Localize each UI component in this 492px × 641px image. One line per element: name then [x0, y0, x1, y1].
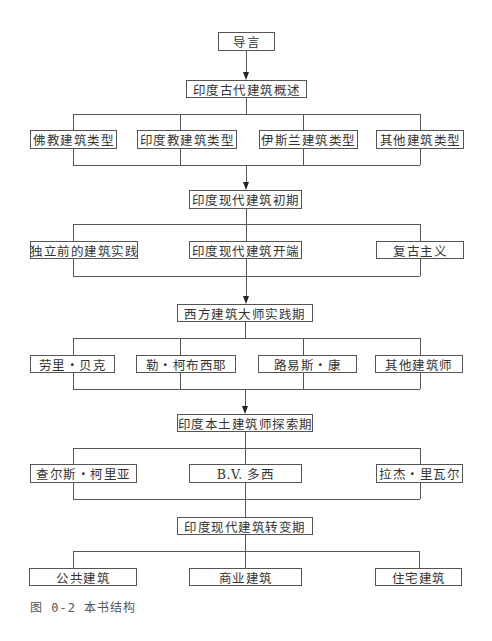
node-hindu-types: 印度教建筑类型	[137, 130, 237, 149]
node-le-corbusier: 勒・柯布西耶	[136, 355, 236, 373]
connector-line	[245, 389, 246, 406]
connector-line	[246, 165, 247, 182]
connector-line	[73, 499, 420, 500]
connector-line	[73, 338, 420, 339]
node-early-modern: 印度现代建筑初期	[189, 190, 302, 209]
node-modern-beginnings: 印度现代建筑开端	[189, 241, 302, 259]
connector-line	[419, 551, 420, 568]
node-ancient-architecture-overview: 印度古代建筑概述	[186, 80, 307, 98]
node-indigenous-architects-period: 印度本土建筑师探索期	[177, 414, 313, 432]
connector-line	[73, 114, 420, 115]
node-buddhist-types: 佛教建筑类型	[30, 130, 117, 149]
node-root-introduction: 导言	[218, 32, 275, 51]
connector-line	[245, 499, 246, 517]
node-western-masters-period: 西方建筑大师实践期	[177, 304, 313, 322]
node-louis-kahn: 路易斯・康	[258, 355, 357, 373]
node-islamic-types: 伊斯兰建筑类型	[259, 130, 358, 149]
node-other-architects: 其他建筑师	[375, 355, 463, 373]
connector-line	[246, 276, 247, 296]
connector-line	[246, 98, 247, 114]
arrow-down-icon	[243, 182, 249, 190]
node-transformation-period: 印度现代建筑转变期	[177, 517, 313, 535]
node-public-buildings: 公共建筑	[29, 568, 137, 586]
node-pre-independence-practice: 独立前的建筑实践	[30, 241, 138, 259]
connector-line	[246, 51, 247, 73]
node-revivalism: 复古主义	[376, 241, 464, 259]
node-laurie-baker: 劳里・贝克	[30, 355, 115, 373]
node-raj-rewal: 拉杰・里瓦尔	[376, 464, 463, 483]
figure-caption: 图 0-2 本书结构	[30, 598, 136, 615]
connector-line	[73, 224, 420, 225]
node-residential-buildings: 住宅建筑	[375, 568, 462, 586]
connector-line	[73, 389, 420, 390]
connector-line	[73, 551, 74, 568]
node-commercial-buildings: 商业建筑	[189, 568, 302, 586]
connector-line	[73, 551, 419, 552]
node-bv-doshi: B.V. 多西	[189, 464, 302, 483]
node-other-types: 其他建筑类型	[376, 130, 464, 149]
connector-line	[245, 322, 246, 338]
node-charles-correa: 查尔斯・柯里亚	[30, 464, 137, 483]
connector-line	[73, 448, 420, 449]
